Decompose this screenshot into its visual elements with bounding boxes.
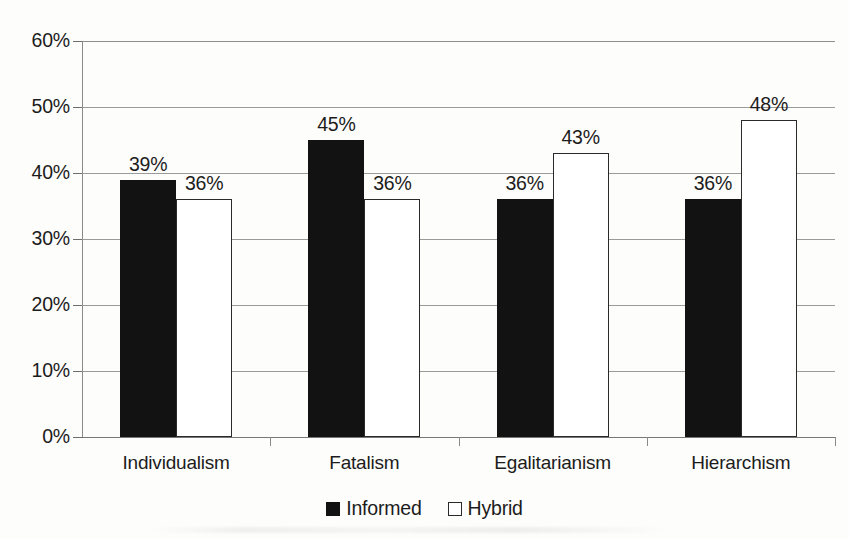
x-tick-mark — [459, 437, 460, 446]
bar-value-label: 36% — [487, 172, 563, 195]
gridline — [82, 41, 835, 42]
bar-value-label: 43% — [543, 126, 619, 149]
x-axis-label-hierarchism: Hierarchism — [647, 452, 835, 474]
plot-area: 0%10%20%30%40%50%60% 39%36%45%36%36%43%3… — [82, 41, 835, 437]
legend-label-hybrid: Hybrid — [468, 497, 523, 520]
y-tick-mark — [73, 239, 82, 240]
y-tick-mark — [73, 107, 82, 108]
bar-value-label: 48% — [731, 93, 807, 116]
x-axis-label-fatalism: Fatalism — [270, 452, 458, 474]
y-tick-label: 50% — [4, 95, 70, 118]
y-tick-mark — [73, 41, 82, 42]
bar-value-label: 45% — [298, 113, 374, 136]
bar-informed-hierarchism — [685, 199, 741, 437]
bar-value-label: 36% — [166, 172, 242, 195]
y-tick-mark — [73, 305, 82, 306]
y-tick-label: 10% — [4, 359, 70, 382]
y-tick-label: 20% — [4, 293, 70, 316]
y-tick-label: 40% — [4, 161, 70, 184]
legend-swatch-informed-icon — [326, 502, 340, 516]
bar-value-label: 36% — [675, 172, 751, 195]
x-axis-label-egalitarianism: Egalitarianism — [459, 452, 647, 474]
scan-artifact — [150, 527, 670, 533]
x-tick-mark — [835, 437, 836, 446]
bar-hybrid-individualism — [176, 199, 232, 437]
x-axis-label-individualism: Individualism — [82, 452, 270, 474]
legend-item-informed: Informed — [326, 497, 421, 520]
bar-hybrid-hierarchism — [741, 120, 797, 437]
bar-value-label: 36% — [354, 172, 430, 195]
y-tick-label: 0% — [4, 425, 70, 448]
y-tick-mark — [73, 371, 82, 372]
legend-swatch-hybrid-icon — [448, 502, 462, 516]
y-tick-mark — [73, 437, 82, 438]
x-tick-mark — [270, 437, 271, 446]
bar-hybrid-egalitarianism — [553, 153, 609, 437]
x-tick-mark — [647, 437, 648, 446]
y-tick-label: 30% — [4, 227, 70, 250]
legend-item-hybrid: Hybrid — [448, 497, 523, 520]
chart-legend: Informed Hybrid — [0, 497, 849, 520]
legend-label-informed: Informed — [346, 497, 421, 520]
y-tick-mark — [73, 173, 82, 174]
x-axis-labels: IndividualismFatalismEgalitarianismHiera… — [82, 452, 835, 482]
bar-chart: 0%10%20%30%40%50%60% 39%36%45%36%36%43%3… — [0, 0, 849, 539]
y-tick-label: 60% — [4, 29, 70, 52]
bar-informed-individualism — [120, 180, 176, 437]
gridline — [82, 107, 835, 108]
bar-hybrid-fatalism — [364, 199, 420, 437]
bar-informed-egalitarianism — [497, 199, 553, 437]
